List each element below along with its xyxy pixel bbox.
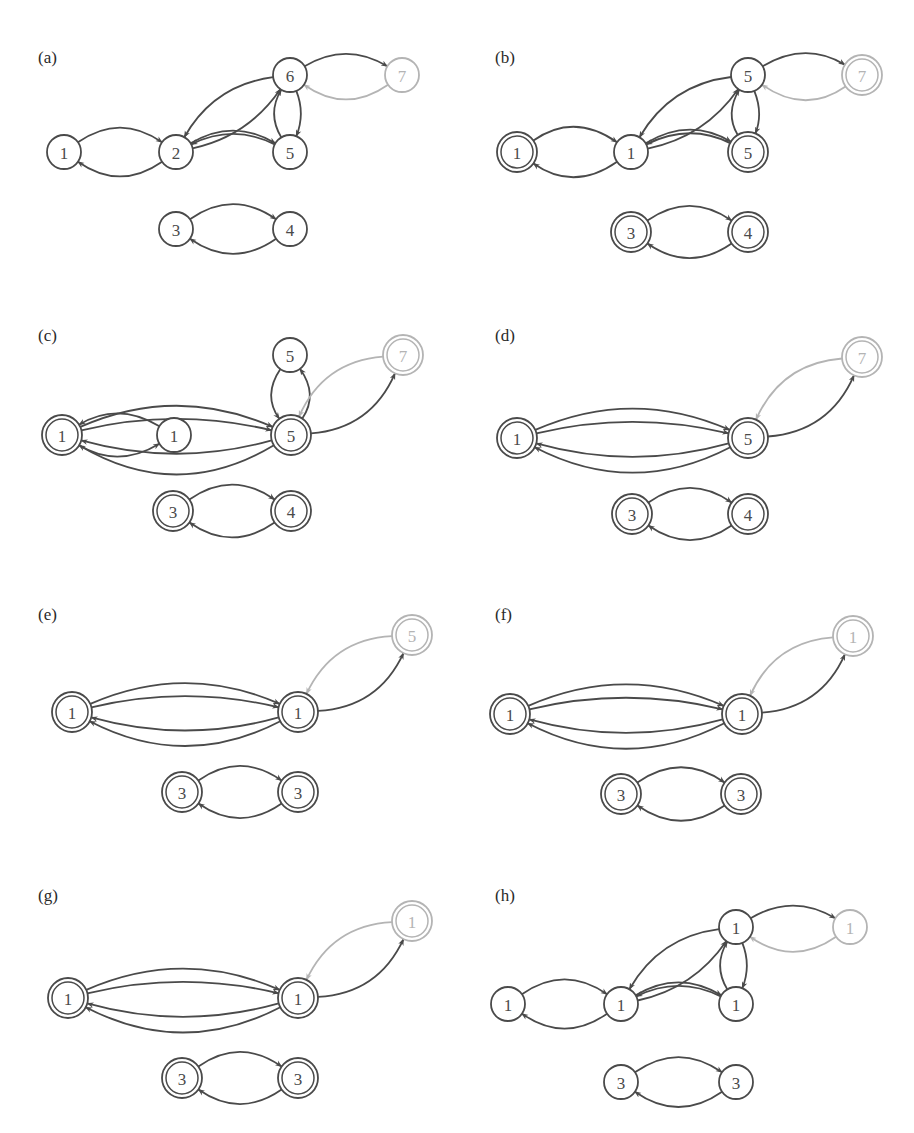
node-label: 5 (286, 144, 295, 163)
edge-arrow (635, 1057, 722, 1072)
node-label: 5 (744, 430, 753, 449)
graph-node: 7 (385, 58, 419, 92)
edge-arrow (762, 654, 845, 712)
node-label: 1 (732, 919, 741, 938)
edge-arrow (198, 1052, 281, 1067)
edges (533, 53, 845, 258)
panel-b: (b)1155734 (495, 48, 882, 258)
node-label: 3 (294, 1070, 303, 1089)
node-label: 1 (513, 430, 522, 449)
edge-arrow (78, 162, 162, 177)
panel-label: (f) (495, 605, 512, 624)
panel-label: (c) (38, 326, 57, 345)
edge-arrow (647, 206, 731, 221)
panel-h: (h)1111133 (491, 886, 867, 1107)
node-label: 7 (858, 67, 867, 86)
edge-arrow (307, 636, 393, 694)
node-label: 1 (170, 427, 179, 446)
edge-arrow (528, 723, 725, 749)
node-label: 3 (617, 786, 626, 805)
graph-node: 3 (719, 1065, 753, 1099)
edges (79, 357, 395, 538)
graph-node-accepting: 4 (728, 494, 768, 534)
edge-arrow (536, 422, 728, 434)
node-label: 3 (294, 784, 303, 803)
panel-d: (d)15734 (495, 326, 882, 540)
node-label: 7 (858, 349, 867, 368)
edge-arrow (636, 982, 722, 995)
edge-arrow (191, 134, 275, 144)
graph-node: 1 (719, 987, 753, 1021)
node-label: 3 (172, 221, 181, 240)
edge-arrow (305, 54, 388, 66)
edge-arrow (304, 85, 388, 100)
edge-arrow (742, 943, 747, 988)
graph-node: 5 (731, 58, 765, 92)
edge-arrow (91, 696, 278, 707)
graph-node-accepting: 7 (842, 337, 882, 377)
node-label: 4 (744, 224, 753, 243)
graph-node: 1 (47, 135, 81, 169)
edge-arrow (529, 698, 722, 710)
graph-node-accepting: 4 (728, 212, 768, 252)
graph-node-accepting: 1 (278, 692, 318, 732)
node-label: 3 (178, 784, 187, 803)
graph-node: 2 (159, 135, 193, 169)
edge-arrow (311, 373, 395, 433)
graph-node: 1 (157, 418, 191, 452)
graph-node-accepting: 1 (52, 692, 92, 732)
edge-arrow (635, 1092, 722, 1107)
node-label: 3 (732, 1074, 741, 1093)
edges (78, 54, 388, 254)
panel-label: (e) (38, 605, 57, 624)
node-label: 1 (294, 990, 303, 1009)
edges (90, 636, 404, 818)
graph-node-accepting: 3 (278, 1058, 318, 1098)
edge-arrow (307, 922, 393, 980)
edge-arrow (190, 204, 276, 219)
node-label: 1 (58, 427, 67, 446)
node-label: 1 (513, 144, 522, 163)
edge-arrow (318, 939, 404, 997)
edge-arrow (90, 721, 281, 746)
edge-arrow (535, 447, 731, 472)
node-label: 5 (408, 627, 417, 646)
node-label: 7 (398, 67, 407, 86)
graph-node: 1 (614, 135, 648, 169)
panel-f: (f)11133 (490, 605, 873, 821)
edge-arrow (533, 162, 617, 178)
edge-arrow (87, 1003, 278, 1016)
graph-node-accepting: 1 (833, 616, 873, 656)
node-label: 1 (846, 919, 855, 938)
panel-label: (d) (495, 326, 515, 345)
node-label: 2 (172, 144, 181, 163)
node-label: 5 (744, 144, 753, 163)
graph-node-accepting: 3 (162, 1058, 202, 1098)
edges (528, 637, 845, 820)
graph-node-accepting: 7 (383, 335, 423, 375)
edge-arrow (296, 91, 301, 136)
panel-a: (a)1256734 (38, 48, 419, 254)
node-label: 5 (286, 347, 295, 366)
graph-node: 4 (273, 212, 307, 246)
edge-arrow (189, 523, 274, 538)
graph-node: 3 (604, 1065, 638, 1099)
panel-label: (g) (38, 886, 58, 905)
graph-node: 1 (719, 910, 753, 944)
edges (522, 906, 836, 1107)
node-label: 1 (408, 913, 417, 932)
graph-node-accepting: 3 (612, 494, 652, 534)
edge-arrow (78, 128, 162, 143)
edge-arrow (533, 127, 617, 143)
edge-arrow (90, 683, 279, 704)
node-label: 3 (627, 224, 636, 243)
node-label: 1 (617, 996, 626, 1015)
graph-node: 5 (273, 135, 307, 169)
panel-e: (e)11533 (38, 605, 432, 818)
edge-arrow (763, 53, 845, 66)
graph-figure: (a)1256734(b)1155734(c)1155734(d)15734(e… (0, 0, 914, 1133)
edge-arrow (318, 653, 404, 711)
graph-node: 3 (159, 212, 193, 246)
graph-node-accepting: 7 (842, 55, 882, 95)
node-label: 1 (64, 990, 73, 1009)
